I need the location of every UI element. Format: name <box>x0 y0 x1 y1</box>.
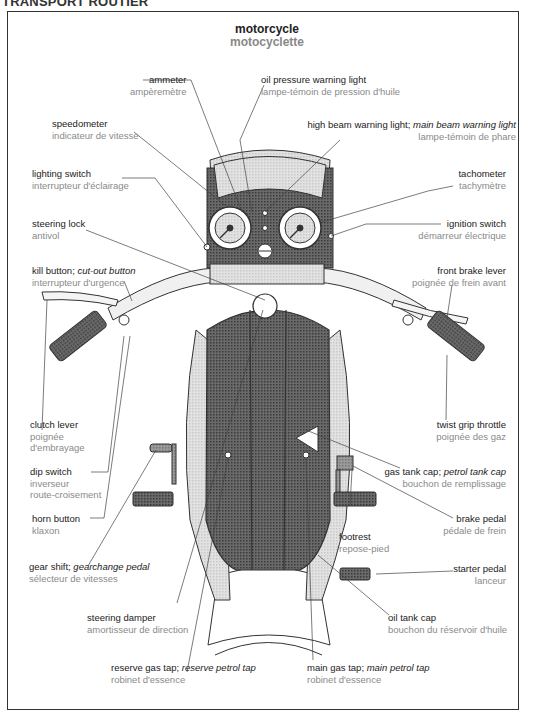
left-grip <box>48 310 108 363</box>
label-front-brake-lever: front brake lever poignée de frein avant <box>412 265 506 288</box>
label-footrest: footrest repose-pied <box>339 531 389 554</box>
label-clutch-lever: clutch lever poignée d'embrayage <box>30 419 85 454</box>
left-footrest-pedals <box>133 444 176 506</box>
tachometer-gauge <box>279 207 321 249</box>
label-tachometer: tachometer tachymètre <box>458 168 506 191</box>
label-reserve-gas-tap: reserve gas tap; reserve petrol tap robi… <box>111 662 256 685</box>
label-high-beam-warning-light: high beam warning light; main beam warni… <box>307 119 516 142</box>
speedometer-gauge <box>209 207 251 249</box>
clutch-lever-shape <box>42 292 118 306</box>
label-main-gas-tap: main gas tap; main petrol tap robinet d'… <box>307 662 430 685</box>
label-brake-pedal: brake pedal pédale de frein <box>443 513 506 536</box>
label-steering-lock: steering lock antivol <box>32 218 85 241</box>
label-lighting-switch: lighting switch interrupteur d'éclairage <box>32 168 129 191</box>
label-speedometer: speedometer indicateur de vitesse <box>52 118 139 141</box>
label-kill-button: kill button; cut-out button interrupteur… <box>32 265 136 288</box>
label-gas-tank-cap: gas tank cap; petrol tank cap bouchon de… <box>385 466 506 489</box>
label-ignition-switch: ignition switch démarreur électrique <box>418 218 506 241</box>
label-twist-grip-throttle: twist grip throttle poignée des gaz <box>436 419 506 442</box>
label-steering-damper: steering damper amortisseur de direction <box>87 612 188 635</box>
label-oil-tank-cap: oil tank cap bouchon du réservoir d'huil… <box>388 612 507 635</box>
motorcycle-illustration <box>0 0 534 713</box>
label-oil-pressure-warning-light: oil pressure warning light lampe-témoin … <box>261 74 400 97</box>
label-ammeter: ammeter ampèremètre <box>130 74 187 97</box>
label-horn-button: horn button klaxon <box>32 513 80 536</box>
label-dip-switch: dip switch inverseur route-croisement <box>30 466 101 501</box>
label-starter-pedal: starter pedal lanceur <box>453 563 506 586</box>
label-gear-shift: gear shift; gearchange pedal sélecteur d… <box>29 561 149 584</box>
